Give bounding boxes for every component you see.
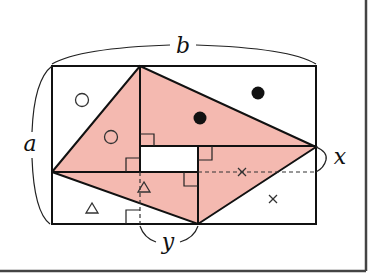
triangle-marker-1 (86, 203, 98, 213)
geometry-diagram: b a x y (0, 0, 379, 280)
dot-marker-2 (194, 112, 207, 125)
brace-a-top (32, 66, 52, 132)
brace-x (316, 147, 326, 172)
label-a: a (23, 131, 36, 156)
circle-marker-1 (76, 94, 89, 107)
brace-a-bottom (32, 158, 50, 224)
brace-y-left (140, 226, 156, 242)
label-b: b (176, 33, 190, 58)
brace-b-left (52, 45, 170, 64)
cross-marker-2 (269, 195, 277, 203)
brace-y-right (180, 226, 198, 242)
label-x: x (334, 144, 347, 169)
label-y: y (161, 229, 175, 254)
inner-white-rectangle (140, 146, 198, 172)
brace-b-right (196, 45, 316, 64)
dot-marker-1 (252, 87, 265, 100)
